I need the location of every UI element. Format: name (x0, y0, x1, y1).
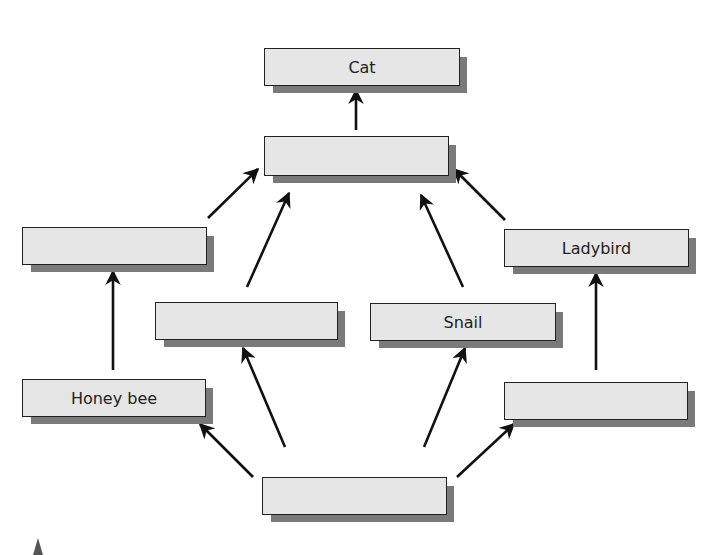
bottom-box-blank[interactable] (262, 477, 447, 515)
ladybird-label: Ladybird (562, 239, 631, 258)
cat-box: Cat (264, 48, 460, 86)
arrow-bottom-to-mid-left (243, 348, 285, 447)
arrow-bottom-to-right-lower (457, 424, 514, 477)
hub-box-blank[interactable] (264, 136, 449, 176)
arrow-left-upper-to-hub (208, 169, 258, 218)
corner-triangle-mark (33, 538, 43, 555)
mid-left-box-blank[interactable] (155, 302, 338, 340)
cat-label: Cat (348, 58, 375, 77)
right-lower-box-blank[interactable] (504, 382, 688, 420)
arrow-mid-left-to-hub (247, 193, 289, 287)
arrow-bottom-to-honey-bee (200, 424, 253, 477)
arrow-ladybird-to-hub (454, 169, 505, 220)
arrow-bottom-to-snail (424, 348, 465, 447)
honey-bee-label: Honey bee (71, 389, 157, 408)
arrow-snail-to-hub (421, 195, 463, 287)
honey-bee-box: Honey bee (22, 379, 206, 417)
ladybird-box: Ladybird (504, 229, 689, 267)
snail-box: Snail (370, 303, 556, 341)
left-upper-box-blank[interactable] (22, 227, 207, 265)
snail-label: Snail (444, 313, 483, 332)
